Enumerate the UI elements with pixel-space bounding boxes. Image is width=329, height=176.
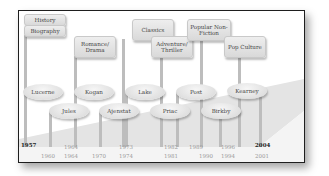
year-label-lower: 1974 — [119, 153, 133, 159]
year-label-upper: 1996 — [221, 144, 235, 150]
year-label-lower: 1970 — [92, 153, 106, 159]
timeline-line — [176, 92, 179, 147]
genre-box: Romance/ Drama — [74, 36, 116, 58]
timeline-line — [125, 92, 128, 147]
year-label-upper: 2004 — [255, 142, 270, 148]
timeline-line — [160, 56, 163, 147]
timeline-line — [259, 91, 262, 147]
timeline-frame: HistoryBiographyRomance/ DramaClassicsAd… — [18, 10, 305, 163]
author-oval: Priac — [150, 103, 190, 119]
author-oval: Post — [176, 84, 216, 100]
author-oval: Jules — [49, 103, 89, 119]
year-label-lower: 1960 — [41, 153, 55, 159]
year-label-upper: 1982 — [164, 144, 178, 150]
author-oval: Ajenstat — [99, 103, 139, 119]
timeline-line — [238, 56, 241, 147]
author-oval: Lake — [125, 84, 165, 100]
year-label-lower: 1981 — [164, 153, 178, 159]
genre-box: Pop Culture — [224, 36, 266, 58]
timeline-line — [74, 56, 77, 147]
year-label-lower: 1964 — [64, 153, 78, 159]
genre-box: Biography — [24, 25, 66, 37]
year-label-upper: 1964 — [64, 144, 78, 150]
year-label-lower: 2001 — [255, 153, 269, 159]
timeline-line — [49, 111, 52, 147]
year-label-lower: 1990 — [199, 153, 213, 159]
year-label-lower: 1994 — [221, 153, 235, 159]
author-oval: Birkby — [201, 103, 241, 119]
author-oval: Lucerne — [23, 84, 63, 100]
author-oval: Kogan — [74, 84, 114, 100]
timeline-line — [99, 111, 102, 147]
year-label-upper: 1989 — [189, 144, 203, 150]
year-label-upper: 1957 — [21, 142, 36, 148]
year-label-upper: 1973 — [119, 144, 133, 150]
author-oval: Kearney — [227, 83, 267, 99]
